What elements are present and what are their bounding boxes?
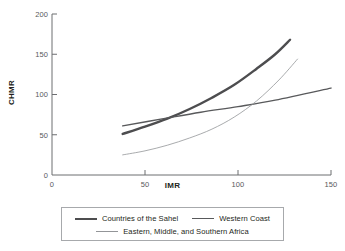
series-line-2 [123,88,331,126]
chart-svg [0,0,345,200]
y-axis-ticks [52,14,57,135]
y-tick-label-100: 100 [24,90,48,99]
legend-entry-eastern-middle-southern[interactable]: Eastern, Middle, and Southern Africa [96,227,248,236]
legend-label-sahel: Countries of the Sahel [102,214,178,223]
legend-label-eastern-middle-southern: Eastern, Middle, and Southern Africa [123,227,248,236]
x-axis-title: IMR [0,181,345,190]
y-tick-label-150: 150 [24,50,48,59]
legend-entry-western-coast[interactable]: Western Coast [192,214,270,223]
y-axis-title: CHMR [7,73,16,113]
y-tick-label-0: 0 [24,171,48,180]
plot-area: 200 150 100 50 0 0 50 100 150 CHMR [0,0,345,200]
series-line-1 [123,40,290,134]
series-line-3 [123,59,298,155]
legend-swatch-thin-icon [96,231,118,232]
chart-legend: Countries of the Sahel Western Coast Eas… [61,207,284,241]
series-layer [123,40,331,155]
y-tick-label-200: 200 [24,10,48,19]
chart-figure: 200 150 100 50 0 0 50 100 150 CHMR IMR C… [0,0,345,251]
legend-label-western-coast: Western Coast [219,214,270,223]
legend-row-top: Countries of the Sahel Western Coast [62,212,283,225]
y-tick-label-50: 50 [24,131,48,140]
legend-entry-sahel[interactable]: Countries of the Sahel [75,214,178,223]
axis-lines [52,14,331,175]
legend-row-bottom: Eastern, Middle, and Southern Africa [62,225,283,238]
legend-swatch-thick-icon [75,218,97,220]
legend-swatch-medium-icon [192,218,214,219]
x-axis-ticks [145,170,331,175]
